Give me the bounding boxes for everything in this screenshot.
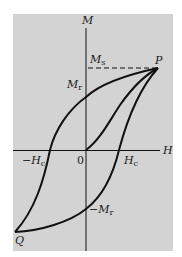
point-q-label: Q bbox=[15, 235, 24, 246]
remanence-label: Mr bbox=[67, 79, 82, 92]
h-axis-label: H bbox=[163, 145, 173, 156]
hysteresis-plot bbox=[0, 0, 182, 257]
neg-coercivity-label: −Hc bbox=[22, 155, 45, 168]
point-p-label: P bbox=[155, 55, 162, 66]
m-axis-label: M bbox=[82, 15, 93, 26]
origin-label: 0 bbox=[77, 155, 84, 166]
neg-remanence-label: −Mr bbox=[89, 204, 113, 217]
coercivity-label: Hc bbox=[124, 155, 138, 168]
saturation-label: Ms bbox=[90, 54, 105, 67]
